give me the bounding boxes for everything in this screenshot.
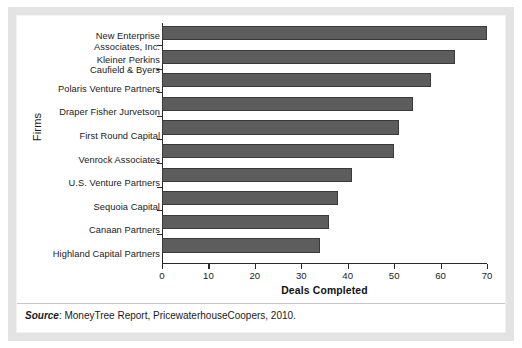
x-tick-label: 40 [342, 270, 353, 281]
x-tick [162, 264, 163, 269]
y-tick [157, 45, 162, 46]
y-tick [157, 234, 162, 235]
x-tick [348, 264, 349, 269]
x-tick-label: 20 [250, 270, 261, 281]
x-axis-title: Deals Completed [162, 285, 487, 296]
x-tick-label: 60 [435, 270, 446, 281]
x-tick-label: 70 [482, 270, 493, 281]
y-tick [157, 187, 162, 188]
category-label: Draper Fisher Jurvetson [59, 107, 160, 117]
source-divider [17, 303, 505, 304]
category-label: Polaris Venture Partners [58, 84, 160, 94]
bar [162, 73, 431, 87]
category-label: First Round Capital [79, 131, 160, 141]
bar [162, 144, 394, 158]
x-tick [487, 264, 488, 269]
source-text: : MoneyTree Report, PricewaterhouseCoope… [59, 310, 296, 321]
y-tick [157, 116, 162, 117]
x-tick-label: 0 [159, 270, 164, 281]
y-tick [157, 139, 162, 140]
category-label: Kleiner Perkins Caufield & Byers [90, 55, 160, 75]
y-tick [157, 69, 162, 70]
x-tick [208, 264, 209, 269]
x-tick [394, 264, 395, 269]
category-label: U.S. Venture Partners [69, 178, 160, 188]
x-tick-label: 50 [389, 270, 400, 281]
bar [162, 50, 455, 64]
y-axis-title: Firms [31, 95, 43, 159]
bar [162, 191, 338, 205]
bar [162, 168, 352, 182]
category-label: Highland Capital Partners [53, 249, 160, 259]
category-label: Sequoia Capital [94, 202, 160, 212]
x-tick [255, 264, 256, 269]
x-axis-line [162, 263, 487, 264]
bar [162, 26, 487, 40]
y-tick [157, 210, 162, 211]
x-tick [301, 264, 302, 269]
x-tick [441, 264, 442, 269]
bar [162, 215, 329, 229]
bar [162, 238, 320, 252]
category-label: New Enterprise Associates, Inc. [94, 31, 160, 51]
y-tick [157, 92, 162, 93]
x-tick-label: 30 [296, 270, 307, 281]
x-tick-label: 10 [203, 270, 214, 281]
category-label: Venrock Associates [78, 155, 160, 165]
bar [162, 120, 399, 134]
y-tick [157, 163, 162, 164]
chart-plot-area: Firms New Enterprise Associates, Inc.Kle… [18, 17, 504, 295]
source-label: Source [25, 310, 59, 321]
category-label: Canaan Partners [89, 225, 160, 235]
source-note: Source: MoneyTree Report, Pricewaterhous… [25, 310, 296, 321]
figure-container: Firms New Enterprise Associates, Inc.Kle… [0, 0, 522, 348]
bar [162, 97, 413, 111]
